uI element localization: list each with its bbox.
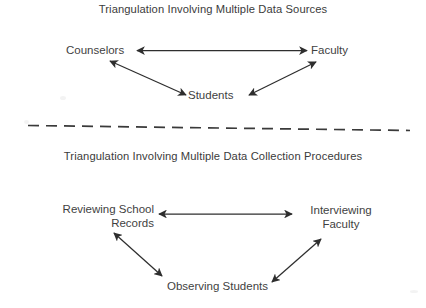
node-counselors: Counselors <box>66 43 124 57</box>
panel-title-data-sources: Triangulation Involving Multiple Data So… <box>0 3 426 15</box>
node-interviewing-faculty-line2: Faculty <box>298 217 384 231</box>
node-interviewing-faculty-line1: Interviewing <box>298 203 384 217</box>
node-reviewing-school-records-line2: Records <box>42 216 154 230</box>
node-reviewing-school-records-line1: Reviewing School <box>42 202 154 216</box>
node-reviewing-school-records: Reviewing School Records <box>42 202 154 230</box>
node-observing-students: Observing Students <box>167 279 268 293</box>
panel-multiple-data-sources: Triangulation Involving Multiple Data So… <box>0 0 426 130</box>
node-faculty: Faculty <box>311 43 348 57</box>
panel-title-data-collection-procedures: Triangulation Involving Multiple Data Co… <box>0 150 426 162</box>
diagram-page: Triangulation Involving Multiple Data So… <box>0 0 426 308</box>
node-interviewing-faculty: Interviewing Faculty <box>298 203 384 231</box>
node-students: Students <box>188 88 233 102</box>
